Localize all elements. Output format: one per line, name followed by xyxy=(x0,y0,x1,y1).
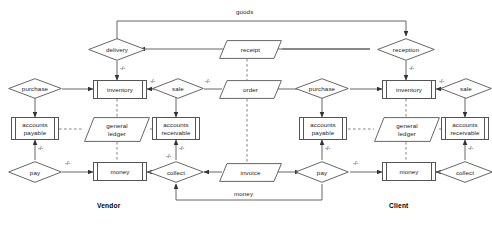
relationship-purchase-client[interactable]: purchase xyxy=(295,78,349,99)
relationship-label: reception xyxy=(393,46,419,53)
cardinality-collect-ar-client: -/- xyxy=(468,145,473,151)
cardinality-pay-ap-client: -/- xyxy=(325,145,330,151)
cardinality-sale-inventory-client: -/- xyxy=(439,78,444,84)
document-label: invoice xyxy=(241,169,261,176)
cardinality-pay-money-vendor: -/- xyxy=(65,160,70,166)
cardinality-pay-money-client: -/- xyxy=(353,160,358,166)
relationship-label: delivery xyxy=(106,46,128,53)
cardinality-collect-ar-vendor: -/- xyxy=(179,145,184,151)
entity-line-2: receivable xyxy=(450,129,479,136)
diagram-canvas: goods money delivery reception purchase … xyxy=(0,0,492,225)
relationship-label: purchase xyxy=(22,85,48,92)
entity-label: money xyxy=(395,168,422,175)
entity-label: money xyxy=(106,168,133,175)
entity-label: inventory xyxy=(392,86,426,93)
entity-label: inventory xyxy=(103,86,137,93)
relationship-reception[interactable]: reception xyxy=(377,38,435,61)
cardinality-delivery-inventory: -/- xyxy=(120,65,125,71)
gl-line-2: ledger xyxy=(108,130,126,137)
actor-label-vendor: Vendor xyxy=(97,202,121,209)
document-receipt[interactable]: receipt xyxy=(219,40,282,59)
relationship-label: purchase xyxy=(309,85,335,92)
entity-line-1: accounts xyxy=(22,121,48,128)
document-label: order xyxy=(243,86,258,93)
relationship-delivery[interactable]: delivery xyxy=(88,38,146,61)
document-invoice[interactable]: invoice xyxy=(219,163,282,182)
relationship-label: pay xyxy=(317,169,327,176)
document-label: receipt xyxy=(241,46,260,53)
entity-label: accountspayable xyxy=(18,121,52,136)
gl-line-2: ledger xyxy=(398,130,416,137)
entity-accounts-payable-vendor[interactable]: accountspayable xyxy=(11,117,59,140)
document-label: generalledger xyxy=(106,122,127,137)
document-general-ledger-vendor[interactable]: generalledger xyxy=(84,117,150,142)
flow-label-money: money xyxy=(234,190,253,197)
entity-line-2: payable xyxy=(24,129,46,136)
gl-line-1: general xyxy=(396,122,417,129)
document-general-ledger-client[interactable]: generalledger xyxy=(374,117,440,142)
relationship-pay-vendor[interactable]: pay xyxy=(8,161,62,183)
cardinality-pay-ap-vendor: -/- xyxy=(38,145,43,151)
entity-label: accountspayable xyxy=(306,121,340,136)
relationship-label: sale xyxy=(172,85,184,92)
relationship-label: sale xyxy=(460,85,472,92)
entity-label: accountsreceivable xyxy=(446,121,483,136)
relationship-label: pay xyxy=(30,169,40,176)
document-order[interactable]: order xyxy=(219,80,282,99)
relationship-purchase-vendor[interactable]: purchase xyxy=(8,78,62,99)
flow-label-goods: goods xyxy=(236,8,253,15)
entity-line-1: accounts xyxy=(310,121,336,128)
entity-line-1: accounts xyxy=(163,121,189,128)
entity-accounts-payable-client[interactable]: accountspayable xyxy=(299,117,347,140)
relationship-sale-vendor[interactable]: sale xyxy=(152,78,204,99)
entity-inventory-client[interactable]: inventory xyxy=(382,80,436,99)
cardinality-order-sale: -/- xyxy=(205,78,210,84)
cardinality-reception-inventory: -/- xyxy=(409,65,414,71)
entity-money-vendor[interactable]: money xyxy=(93,162,147,181)
gl-line-1: general xyxy=(106,122,127,129)
relationship-label: collect xyxy=(167,169,185,176)
entity-line-2: receivable xyxy=(161,129,190,136)
document-label: generalledger xyxy=(396,122,417,137)
entity-inventory-vendor[interactable]: inventory xyxy=(93,80,147,99)
entity-accounts-receivable-client[interactable]: accountsreceivable xyxy=(441,117,489,140)
relationship-label: collect xyxy=(456,169,474,176)
relationship-sale-client[interactable]: sale xyxy=(440,78,492,99)
entity-line-2: payable xyxy=(312,129,334,136)
entity-line-1: accounts xyxy=(452,121,478,128)
entity-accounts-receivable-vendor[interactable]: accountsreceivable xyxy=(152,117,200,140)
entity-money-client[interactable]: money xyxy=(382,162,436,181)
relationship-collect-client[interactable]: collect xyxy=(437,161,492,183)
relationship-collect-vendor[interactable]: collect xyxy=(148,161,204,183)
relationship-pay-client[interactable]: pay xyxy=(295,161,349,183)
entity-label: accountsreceivable xyxy=(157,121,194,136)
cardinality-sale-inventory-vendor: -/- xyxy=(150,78,155,84)
cardinality-collect-money-vendor: -/- xyxy=(166,153,171,159)
actor-label-client: Client xyxy=(389,202,409,209)
